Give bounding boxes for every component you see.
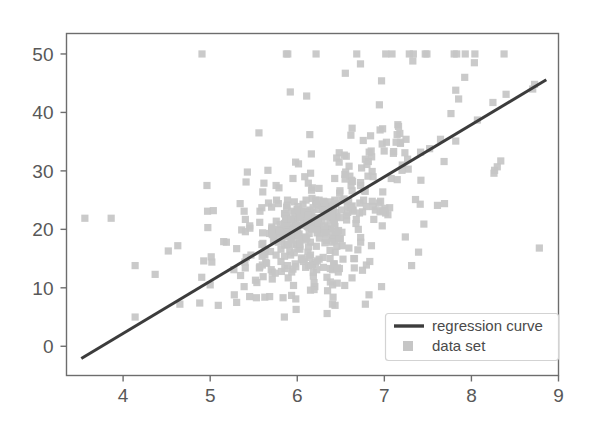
y-tick-label: 50 bbox=[32, 44, 53, 65]
data-point bbox=[215, 302, 222, 309]
data-point bbox=[357, 60, 364, 67]
legend-square-swatch bbox=[403, 341, 413, 351]
data-point bbox=[263, 260, 270, 267]
data-point bbox=[321, 229, 328, 236]
data-point bbox=[210, 207, 217, 214]
data-point bbox=[152, 271, 159, 278]
data-point bbox=[331, 197, 338, 204]
data-point bbox=[386, 204, 393, 211]
y-tick-label: 0 bbox=[43, 336, 54, 357]
data-point bbox=[354, 246, 361, 253]
data-point bbox=[233, 299, 240, 306]
scatter-plot-canvas: 456789 01020304050 regression curve data… bbox=[0, 0, 591, 433]
data-point bbox=[260, 180, 267, 187]
data-point bbox=[379, 222, 386, 229]
data-point bbox=[417, 177, 424, 184]
data-point bbox=[390, 148, 397, 155]
data-point bbox=[281, 313, 288, 320]
chart-figure: 456789 01020304050 regression curve data… bbox=[0, 0, 591, 433]
data-point bbox=[246, 222, 253, 229]
data-point bbox=[314, 226, 321, 233]
data-point bbox=[132, 262, 139, 269]
chart-legend: regression curve data set bbox=[386, 314, 559, 361]
data-point bbox=[287, 88, 294, 95]
data-point bbox=[334, 280, 341, 287]
data-point bbox=[462, 50, 469, 57]
data-point bbox=[359, 267, 366, 274]
data-point bbox=[408, 262, 415, 269]
data-point bbox=[237, 200, 244, 207]
data-point bbox=[198, 50, 205, 57]
data-point bbox=[241, 208, 248, 215]
x-tick-label: 6 bbox=[292, 385, 303, 406]
x-tick-label: 8 bbox=[466, 385, 477, 406]
data-point bbox=[402, 233, 409, 240]
data-point bbox=[415, 249, 422, 256]
data-point bbox=[306, 131, 313, 138]
data-point bbox=[343, 216, 350, 223]
data-point bbox=[289, 175, 296, 182]
data-point bbox=[365, 291, 372, 298]
data-point bbox=[447, 110, 454, 117]
data-point bbox=[302, 197, 309, 204]
data-point bbox=[261, 294, 268, 301]
data-point bbox=[341, 282, 348, 289]
data-point bbox=[461, 74, 468, 81]
data-point bbox=[308, 187, 315, 194]
y-tick-label: 20 bbox=[32, 219, 53, 240]
data-point bbox=[339, 242, 346, 249]
data-point bbox=[440, 158, 447, 165]
data-point bbox=[203, 182, 210, 189]
data-point bbox=[204, 224, 211, 231]
data-point bbox=[342, 70, 349, 77]
data-point bbox=[376, 126, 383, 133]
data-point bbox=[208, 253, 215, 260]
data-point bbox=[360, 137, 367, 144]
data-point bbox=[351, 264, 358, 271]
data-point bbox=[313, 243, 320, 250]
data-point bbox=[341, 175, 348, 182]
data-point bbox=[321, 239, 328, 246]
data-point bbox=[246, 293, 253, 300]
data-point bbox=[455, 95, 462, 102]
data-point bbox=[333, 154, 340, 161]
data-point bbox=[349, 178, 356, 185]
legend-label-regression-curve: regression curve bbox=[432, 317, 543, 334]
data-point bbox=[378, 77, 385, 84]
data-point bbox=[301, 256, 308, 263]
data-point bbox=[287, 215, 294, 222]
data-point bbox=[328, 239, 335, 246]
data-point bbox=[220, 238, 227, 245]
data-point bbox=[366, 258, 373, 265]
data-point bbox=[310, 273, 317, 280]
data-point bbox=[312, 50, 319, 57]
data-point bbox=[259, 229, 266, 236]
data-point bbox=[331, 220, 338, 227]
data-point bbox=[326, 247, 333, 254]
data-point bbox=[81, 215, 88, 222]
data-point bbox=[281, 253, 288, 260]
data-point bbox=[231, 291, 238, 298]
data-point bbox=[368, 147, 375, 154]
data-point bbox=[293, 306, 300, 313]
data-point bbox=[304, 212, 311, 219]
data-point bbox=[332, 228, 339, 235]
data-point bbox=[494, 163, 501, 170]
y-tick-label: 30 bbox=[32, 161, 53, 182]
data-point bbox=[242, 264, 249, 271]
data-point bbox=[255, 129, 262, 136]
data-point bbox=[256, 264, 263, 271]
data-point bbox=[378, 283, 385, 290]
data-point bbox=[304, 249, 311, 256]
data-point bbox=[260, 273, 267, 280]
data-point bbox=[393, 139, 400, 146]
data-point bbox=[328, 211, 335, 218]
data-point bbox=[273, 197, 280, 204]
data-point bbox=[394, 176, 401, 183]
data-point bbox=[336, 265, 343, 272]
y-tick-label: 40 bbox=[32, 102, 53, 123]
x-tick-label: 7 bbox=[379, 385, 390, 406]
data-point bbox=[410, 50, 417, 57]
y-tick-label: 10 bbox=[32, 278, 53, 299]
data-point bbox=[273, 182, 280, 189]
